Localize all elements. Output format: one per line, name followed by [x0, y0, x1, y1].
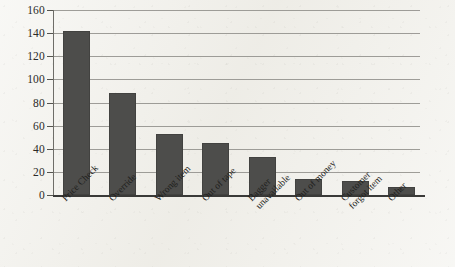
y-tick-label: 160	[27, 4, 45, 16]
y-tick-label: 140	[27, 27, 45, 39]
y-tick-label: 20	[33, 166, 45, 178]
x-axis-category-labels: Price CheckOverrideWrong itemOut of tape…	[0, 196, 455, 267]
y-tick-label: 60	[33, 120, 45, 132]
y-tick-label: 80	[33, 97, 45, 109]
y-tick-label: 100	[27, 73, 45, 85]
bar-chart-figure: 020406080100120140160 Price CheckOverrid…	[0, 0, 455, 267]
y-tick-label: 120	[27, 50, 45, 62]
y-tick-label: 40	[33, 143, 45, 155]
